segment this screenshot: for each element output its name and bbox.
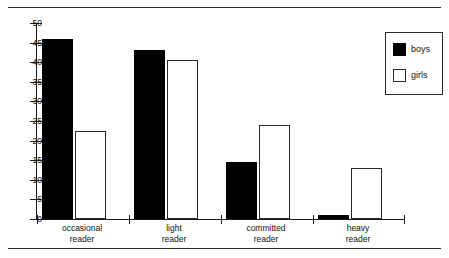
x-axis-label-line2: reader (128, 234, 220, 245)
x-axis-label-3: heavyreader (312, 223, 404, 244)
bar-girls-2 (259, 125, 290, 219)
legend-entry-boys: boys (393, 43, 430, 56)
chart-legend: boys girls (385, 32, 443, 95)
bar-boys-1 (134, 50, 165, 219)
x-axis-label-line2: reader (312, 234, 404, 245)
legend-entry-girls: girls (393, 69, 428, 82)
x-axis-label-1: lightreader (128, 223, 220, 244)
x-axis-label-2: committedreader (220, 223, 312, 244)
x-axis-label-line2: reader (36, 234, 128, 245)
bar-girls-1 (167, 60, 198, 219)
legend-label-boys: boys (411, 45, 430, 54)
x-axis-label-line1: occasional (36, 223, 128, 234)
x-axis-label-line2: reader (220, 234, 312, 245)
bar-boys-0 (42, 39, 73, 219)
bar-girls-0 (75, 131, 106, 219)
figure-top-rule (8, 7, 441, 8)
bar-chart: 05101520253035404550 occasionalreaderlig… (0, 10, 449, 250)
bar-girls-3 (351, 168, 382, 219)
x-axis-tick-end (404, 215, 405, 224)
plot-area (36, 23, 404, 219)
legend-label-girls: girls (411, 71, 428, 80)
x-axis-label-line1: heavy (312, 223, 404, 234)
x-axis-label-line1: committed (220, 223, 312, 234)
bar-boys-2 (226, 162, 257, 219)
x-axis-line (36, 219, 404, 220)
x-axis-label-line1: light (128, 223, 220, 234)
hollow-square-icon (393, 69, 406, 82)
x-axis-label-0: occasionalreader (36, 223, 128, 244)
bar-boys-3 (318, 215, 349, 219)
filled-square-icon (393, 43, 406, 56)
